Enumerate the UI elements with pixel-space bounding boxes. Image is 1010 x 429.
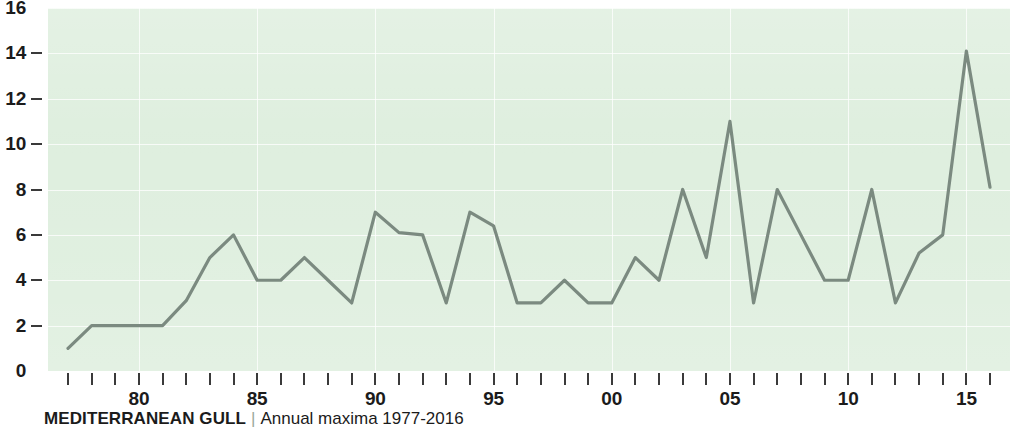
x-axis-tick-mark — [729, 373, 731, 385]
y-axis-tick-mark — [31, 143, 42, 145]
x-axis-tick-mark — [114, 373, 116, 385]
x-axis-tick-label: 80 — [129, 388, 150, 410]
y-axis-tick-label: 6 — [16, 224, 26, 246]
y-axis-tick-mark — [31, 189, 42, 191]
x-axis-tick-mark — [564, 373, 566, 385]
caption: MEDITERRANEAN GULL|Annual maxima 1977-20… — [44, 409, 464, 429]
y-axis-tick-label: 8 — [16, 179, 26, 201]
x-axis-tick-mark — [280, 373, 282, 385]
y-axis-tick-label: 16 — [5, 0, 26, 19]
x-axis-tick-mark — [682, 373, 684, 385]
x-axis-tick-mark — [918, 373, 920, 385]
x-axis-tick-label: 00 — [601, 388, 622, 410]
caption-subtitle: Annual maxima 1977-2016 — [260, 409, 463, 428]
caption-title: MEDITERRANEAN GULL — [44, 409, 246, 428]
x-axis-tick-mark — [800, 373, 802, 385]
x-axis-tick-mark — [611, 373, 613, 385]
x-axis-tick-mark — [847, 373, 849, 385]
y-axis-tick-mark — [31, 52, 42, 54]
x-axis-tick-mark — [422, 373, 424, 385]
y-axis-tick-label: 12 — [5, 88, 26, 110]
x-axis-tick-label: 95 — [483, 388, 504, 410]
y-axis: 0246810121416 — [0, 0, 48, 380]
x-axis-tick-mark — [374, 373, 376, 385]
x-axis-tick-mark — [327, 373, 329, 385]
x-axis-tick-mark — [776, 373, 778, 385]
x-axis-tick-mark — [398, 373, 400, 385]
series-polyline — [68, 51, 990, 348]
plot-area — [48, 8, 1010, 371]
x-axis-tick-mark — [753, 373, 755, 385]
y-axis-tick-label: 14 — [5, 42, 26, 64]
x-axis-tick-mark — [185, 373, 187, 385]
x-axis: 8085909500051015 — [48, 371, 1010, 405]
x-axis-tick-mark — [705, 373, 707, 385]
x-axis-tick-mark — [516, 373, 518, 385]
x-axis-tick-label: 10 — [838, 388, 859, 410]
x-axis-tick-mark — [256, 373, 258, 385]
x-axis-tick-label: 90 — [365, 388, 386, 410]
x-axis-tick-mark — [894, 373, 896, 385]
x-axis-tick-mark — [824, 373, 826, 385]
y-axis-tick-label: 2 — [16, 315, 26, 337]
x-axis-tick-mark — [965, 373, 967, 385]
x-axis-tick-mark — [871, 373, 873, 385]
x-axis-tick-mark — [209, 373, 211, 385]
x-axis-tick-mark — [989, 373, 991, 385]
y-axis-tick-label: 0 — [16, 360, 26, 382]
x-axis-tick-mark — [138, 373, 140, 385]
x-axis-tick-mark — [303, 373, 305, 385]
y-axis-tick-mark — [31, 234, 42, 236]
x-axis-tick-mark — [587, 373, 589, 385]
y-axis-tick-label: 10 — [5, 133, 26, 155]
x-axis-tick-mark — [233, 373, 235, 385]
x-axis-tick-mark — [445, 373, 447, 385]
x-axis-tick-mark — [634, 373, 636, 385]
x-axis-tick-mark — [469, 373, 471, 385]
caption-separator: | — [246, 409, 260, 428]
x-axis-tick-mark — [91, 373, 93, 385]
x-axis-tick-mark — [162, 373, 164, 385]
x-axis-tick-label: 85 — [247, 388, 268, 410]
series-line-chart — [48, 8, 1010, 371]
x-axis-tick-mark — [351, 373, 353, 385]
y-axis-tick-mark — [31, 279, 42, 281]
x-axis-tick-mark — [942, 373, 944, 385]
x-axis-tick-mark — [493, 373, 495, 385]
x-axis-tick-mark — [658, 373, 660, 385]
x-axis-tick-label: 05 — [720, 388, 741, 410]
y-axis-tick-mark — [31, 325, 42, 327]
y-axis-tick-mark — [31, 98, 42, 100]
x-axis-tick-mark — [67, 373, 69, 385]
y-axis-tick-label: 4 — [16, 269, 26, 291]
x-axis-tick-label: 15 — [956, 388, 977, 410]
x-axis-tick-mark — [540, 373, 542, 385]
